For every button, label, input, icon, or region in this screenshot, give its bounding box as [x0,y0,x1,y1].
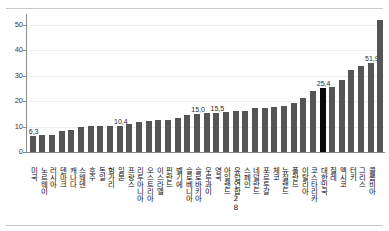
bar-slot [154,12,164,152]
x-axis-category-label: 멕시코 [338,166,346,224]
bar [329,87,335,152]
bar-slot [250,12,260,152]
x-axis-category-label: 영국 [213,166,221,224]
x-axis-category-label: 슬로베니아 [184,166,192,224]
y-axis-tick-mark [23,25,26,26]
bar-slot [47,12,57,152]
x-axis-category-label: 헝가리 [106,166,114,224]
x-axis-line [26,152,385,153]
x-label-slot: 프랑스 [125,166,135,224]
x-axis-category-label: 이스라엘 [155,166,163,224]
x-axis-category-label: 프랑스 [126,166,134,224]
x-axis-category-label: 우루과이 [203,166,211,224]
x-axis-category-label: 폴란드 [290,166,298,224]
bar [291,103,297,152]
bar [358,66,364,152]
bar-slot [269,12,279,152]
bar-slot [289,12,299,152]
x-label-slot: 오스트리아 [144,166,154,224]
x-label-slot: 그리스 [356,166,366,224]
x-axis-category-label: 일본 [116,166,124,224]
bar [126,124,132,152]
bar-slot: 51,9 [366,12,376,152]
bottom-divider-rule [6,225,383,226]
x-axis-category-label: 그리스 [357,166,365,224]
bar-slot [231,12,241,152]
bar [339,80,345,152]
x-label-slot [376,166,386,224]
bar-slot: 25,4 [318,12,328,152]
bar [242,111,248,152]
bar-slot [298,12,308,152]
bar-slot [38,12,48,152]
x-axis-category-label: 포르투갈 [261,166,269,224]
x-axis-category-label: 터키 [348,166,356,224]
x-label-slot: 러시아 [47,166,57,224]
bar-slot [327,12,337,152]
bar-slot [221,12,231,152]
x-axis-category-label: 캐나다 [68,166,76,224]
top-divider-rule [6,8,383,9]
bar [310,91,316,152]
x-label-slot: 덴마크 [57,166,67,224]
bar-slot [125,12,135,152]
x-axis-category-label: 리투아니아 [135,166,143,224]
x-axis-category-label: 노르웨이 [39,166,47,224]
y-axis-tick-mark [23,152,26,153]
bar [377,20,383,152]
bar-highlighted [320,88,326,152]
x-axis-category-label: 이탈리아 [299,166,307,224]
bar-slot: 15,5 [211,12,221,152]
bar [39,135,45,152]
x-axis-category-label: 오스트리아 [145,166,153,224]
x-label-slot: 콜롬비아 [366,166,376,224]
bar-slot [183,12,193,152]
bar [165,120,171,152]
bar [223,112,229,152]
x-label-slot: 리투아니아 [134,166,144,224]
x-axis-category-label: 러시아 [48,166,56,224]
x-label-slot: 이탈리아 [298,166,308,224]
bar-slot [67,12,77,152]
x-label-slot: 뉴질랜드 [279,166,289,224]
bar [68,130,74,152]
bar-slot [76,12,86,152]
bar [49,135,55,152]
bar [59,131,65,152]
bar-slot [173,12,183,152]
x-label-slot: 유럽연합28 [231,166,241,224]
bar-slot [144,12,154,152]
bar-slot [202,12,212,152]
x-label-slot: 아일랜드 [221,166,231,224]
y-axis-tick-mark [23,50,26,51]
bar [88,126,94,152]
x-axis-category-label: 칠레 [328,166,336,224]
bar [204,113,210,152]
x-axis-category-label: 덴마크 [58,166,66,224]
bar-slot [105,12,115,152]
x-label-slot: 우루과이 [202,166,212,224]
y-axis-tick-labels: 01020304050 [0,12,26,152]
x-label-slot: 포르투갈 [260,166,270,224]
x-label-slot: 슬로베니아 [183,166,193,224]
bar-slot: 15,0 [192,12,202,152]
x-axis-category-label: 체코 [270,166,278,224]
bar-slot [356,12,366,152]
bar-slot [134,12,144,152]
x-axis-category-label: 네덜란드 [251,166,259,224]
x-axis-category-label: 뉴질랜드 [280,166,288,224]
bar [281,106,287,152]
bar [213,113,219,152]
x-axis-category-labels: 미국노르웨이러시아덴마크캐나다스웨덴호주독일헝가리일본프랑스리투아니아오스트리아… [28,166,385,224]
x-axis-category-label: 콜롬비아 [367,166,375,224]
x-label-slot: 영국 [211,166,221,224]
bar [184,115,190,152]
y-axis-tick-label: 10 [15,123,23,131]
x-label-slot: 터키 [347,166,357,224]
y-axis-tick-label: 20 [15,97,23,105]
x-axis-category-label: 스페인 [241,166,249,224]
bar-slot [86,12,96,152]
bar-slot [163,12,173,152]
x-axis-category-label: 슬로바키아 [193,166,201,224]
x-label-slot: 호주 [86,166,96,224]
